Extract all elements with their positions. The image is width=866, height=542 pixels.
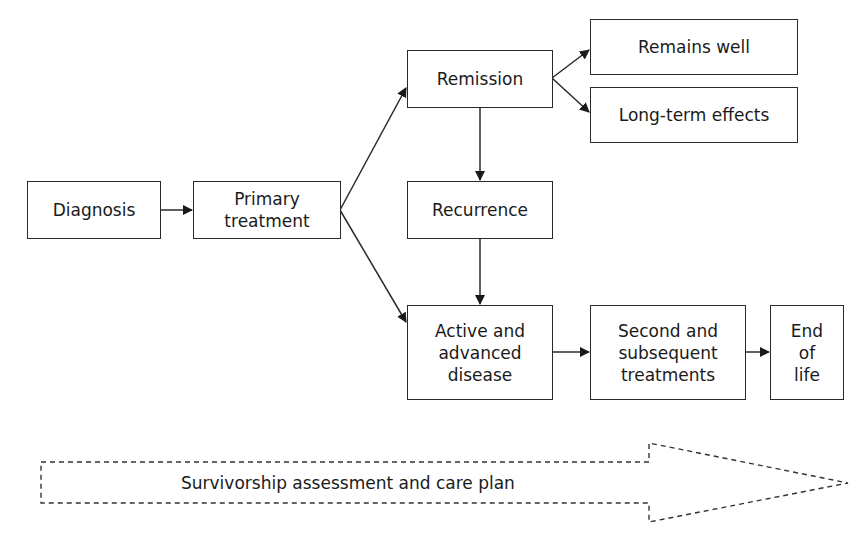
node-label: Remains well	[638, 36, 750, 58]
node-label-line: treatment	[224, 210, 309, 232]
node-end-of-life: End of life	[770, 305, 844, 400]
node-remission: Remission	[407, 50, 553, 108]
node-label-line: treatments	[618, 364, 718, 386]
node-label: Remission	[437, 68, 523, 90]
node-label-line: Primary	[224, 188, 309, 210]
node-diagnosis: Diagnosis	[27, 181, 161, 239]
node-label-line: Second and	[618, 320, 718, 342]
node-label: Recurrence	[432, 199, 528, 221]
node-label-line: End	[791, 320, 823, 342]
node-label-line: of	[791, 342, 823, 364]
node-label-line: life	[791, 364, 823, 386]
node-active-advanced-disease: Active and advanced disease	[407, 305, 553, 400]
arrow-primary-to-active	[340, 210, 406, 322]
clipped-caption	[40, 533, 340, 542]
node-primary-treatment: Primary treatment	[193, 181, 341, 239]
node-label-line: subsequent	[618, 342, 718, 364]
node-second-subsequent-treatments: Second and subsequent treatments	[590, 305, 746, 400]
node-label-line: disease	[435, 364, 525, 386]
node-label: Diagnosis	[53, 199, 136, 221]
arrow-remission-to-long-term	[552, 78, 589, 112]
survivorship-banner-label: Survivorship assessment and care plan	[181, 472, 515, 494]
node-recurrence: Recurrence	[407, 181, 553, 239]
arrow-primary-to-remission	[340, 88, 406, 210]
node-remains-well: Remains well	[590, 19, 798, 75]
node-label: Long-term effects	[619, 104, 770, 126]
node-label-line: advanced	[435, 342, 525, 364]
node-label-line: Active and	[435, 320, 525, 342]
arrow-remission-to-remains-well	[552, 50, 589, 78]
node-long-term-effects: Long-term effects	[590, 87, 798, 143]
